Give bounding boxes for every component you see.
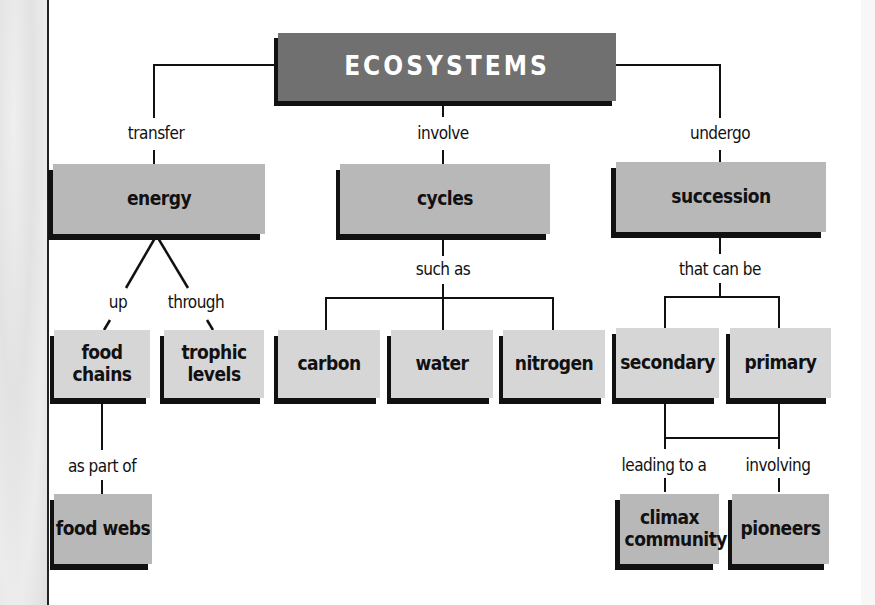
link-label-involve: involve <box>417 123 469 143</box>
link-label-as-part-of: as part of <box>68 456 136 476</box>
node-label: water <box>415 353 468 375</box>
link-label-up: up <box>109 292 127 312</box>
node-label: trophic levels <box>179 342 249 386</box>
node-nitrogen: nitrogen <box>503 330 605 398</box>
node-trophic-levels: trophic levels <box>164 330 264 398</box>
node-climax-community: climax community <box>620 494 719 564</box>
connector <box>664 296 666 328</box>
link-label-leading-to-a: leading to a <box>622 455 707 475</box>
connector <box>442 238 444 256</box>
node-water: water <box>391 330 493 398</box>
link-label-that-can-be: that can be <box>679 259 761 279</box>
node-food-webs: food webs <box>54 494 152 564</box>
connector <box>325 297 553 299</box>
connector <box>778 478 780 492</box>
node-energy: energy <box>53 164 265 234</box>
connector <box>664 478 666 492</box>
link-label-such-as: such as <box>416 259 470 279</box>
connector <box>101 480 103 494</box>
node-label: primary <box>745 352 817 374</box>
connector <box>552 297 554 330</box>
node-label: food webs <box>56 518 150 540</box>
node-primary: primary <box>730 328 831 398</box>
node-label: energy <box>127 188 191 210</box>
link-label-undergo: undergo <box>690 123 750 143</box>
link-label-involving: involving <box>746 455 811 475</box>
node-food-chains: food chains <box>54 330 150 398</box>
node-label: succession <box>671 186 770 208</box>
node-label: secondary <box>620 352 715 374</box>
connector <box>101 402 103 450</box>
connector <box>778 296 780 328</box>
node-label: carbon <box>297 353 360 375</box>
title-node: ECOSYSTEMS <box>278 33 616 101</box>
connector <box>664 402 666 438</box>
link-label-transfer: transfer <box>128 123 184 143</box>
connector <box>664 296 780 298</box>
connector <box>325 297 327 330</box>
title-text: ECOSYSTEMS <box>344 52 550 82</box>
node-label: food chains <box>67 342 137 386</box>
node-secondary: secondary <box>616 328 719 398</box>
connector <box>664 437 780 439</box>
connector <box>719 283 721 297</box>
node-label: climax community <box>625 507 715 551</box>
link-label-through: through <box>168 292 225 312</box>
node-pioneers: pioneers <box>732 494 829 564</box>
connector <box>664 437 666 449</box>
connector <box>778 437 780 449</box>
node-carbon: carbon <box>278 330 380 398</box>
node-label: pioneers <box>741 518 821 540</box>
node-label: nitrogen <box>515 353 593 375</box>
connector <box>442 284 444 330</box>
connector <box>778 402 780 438</box>
node-succession: succession <box>616 162 826 232</box>
node-cycles: cycles <box>340 164 550 234</box>
connector <box>719 236 721 254</box>
node-label: cycles <box>417 188 473 210</box>
